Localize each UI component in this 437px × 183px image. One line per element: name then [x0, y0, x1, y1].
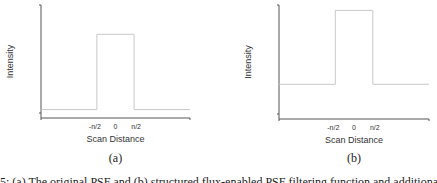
x-tick-label: n/2: [131, 123, 141, 130]
figure: -n/20n/2Scan DistanceIntensity(a) -n/20n…: [0, 0, 437, 183]
panel-label: (a): [109, 151, 122, 165]
y-axis-title: Intensity: [243, 45, 253, 79]
series-line: [41, 34, 190, 109]
chart-panel-b: -n/20n/2Scan DistanceIntensity(b): [243, 5, 429, 165]
x-tick-label: 0: [114, 123, 118, 130]
x-axis-title: Scan Distance: [86, 134, 144, 144]
x-axis-title: Scan Distance: [325, 135, 383, 145]
x-tick-label: -n/2: [89, 123, 101, 130]
x-tick-label: 0: [352, 124, 356, 131]
y-axis-title: Intensity: [5, 44, 15, 78]
chart-panel-a: -n/20n/2Scan DistanceIntensity(a): [5, 5, 190, 165]
figure-caption: 5: (a) The original PSF and (b) structur…: [0, 175, 437, 183]
x-tick-label: n/2: [370, 124, 380, 131]
panel-label: (b): [347, 151, 361, 165]
x-tick-label: -n/2: [327, 124, 339, 131]
series-line: [279, 10, 429, 84]
